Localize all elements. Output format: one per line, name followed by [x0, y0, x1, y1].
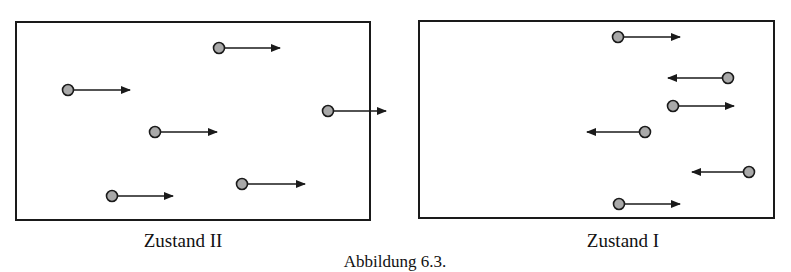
- label-zustand-i: Zustand I: [587, 230, 659, 252]
- particle: [744, 167, 755, 178]
- particle: [150, 127, 161, 138]
- particle: [723, 73, 734, 84]
- label-zustand-ii: Zustand II: [144, 230, 223, 252]
- container-box: [419, 21, 774, 218]
- particle: [323, 106, 334, 117]
- particle: [640, 127, 651, 138]
- particle: [214, 43, 225, 54]
- panel-zustand-i: [419, 21, 774, 218]
- particle: [107, 191, 118, 202]
- panel-zustand-ii: [16, 22, 386, 220]
- particle: [614, 199, 625, 210]
- figure-caption: Abbildung 6.3.: [344, 252, 446, 272]
- container-box: [16, 22, 370, 220]
- particle-diagram: [0, 0, 791, 272]
- particle: [668, 101, 679, 112]
- particle: [63, 85, 74, 96]
- particle: [613, 32, 624, 43]
- particle: [237, 179, 248, 190]
